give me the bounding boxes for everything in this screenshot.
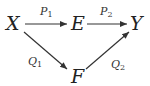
node-e: E — [70, 12, 85, 34]
label-q2: Q2 — [111, 58, 125, 72]
node-y: Y — [130, 12, 145, 34]
node-f: F — [70, 65, 85, 86]
commutative-diagram: X E Y F P1 P2 Q1 Q2 — [0, 0, 150, 86]
label-p2: P2 — [99, 5, 113, 19]
label-p1: P1 — [39, 5, 53, 19]
node-x: X — [4, 12, 21, 34]
label-q1: Q1 — [28, 55, 42, 69]
